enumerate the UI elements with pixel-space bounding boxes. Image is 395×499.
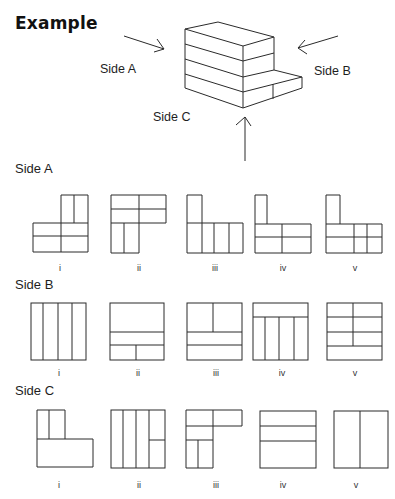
side-c-option-i[interactable] (37, 410, 93, 467)
side-b-option-iv[interactable] (253, 303, 308, 360)
arrow-side-b (298, 36, 338, 54)
arrow-side-c (236, 117, 251, 161)
side-a-option-iii[interactable] (187, 195, 243, 253)
side-a-label-ii: ii (137, 263, 141, 273)
side-b-option-iii[interactable] (187, 303, 242, 360)
diagram-canvas (0, 0, 395, 499)
example-block-3d (185, 22, 302, 108)
side-a-label-i: i (59, 263, 61, 273)
side-c-option-iv[interactable] (260, 411, 316, 468)
side-c-option-v[interactable] (334, 411, 388, 468)
side-b-label-ii: ii (136, 368, 140, 378)
side-c-label-iii: iii (213, 480, 219, 490)
side-c-label-v: v (354, 480, 359, 490)
side-a-label-iii: iii (212, 263, 218, 273)
side-c-label-ii: ii (137, 480, 141, 490)
side-b-option-ii[interactable] (110, 303, 164, 360)
side-c-option-ii[interactable] (111, 410, 165, 468)
side-b-label-i: i (58, 368, 60, 378)
side-a-option-i[interactable] (33, 195, 88, 252)
side-a-label-iv: iv (280, 263, 287, 273)
side-b-label-v: v (353, 368, 358, 378)
side-b-option-i[interactable] (31, 303, 86, 360)
side-b-label-iii: iii (213, 368, 219, 378)
side-c-option-iii[interactable] (186, 410, 242, 468)
side-b-label-iv: iv (279, 368, 286, 378)
side-c-label-i: i (58, 480, 60, 490)
side-c-label-iv: iv (280, 480, 287, 490)
side-a-label-v: v (353, 263, 358, 273)
arrow-side-a (124, 36, 164, 52)
side-b-option-v[interactable] (327, 303, 382, 360)
side-a-option-v[interactable] (326, 195, 382, 253)
side-a-option-ii[interactable] (111, 195, 166, 253)
side-a-option-iv[interactable] (255, 195, 311, 253)
